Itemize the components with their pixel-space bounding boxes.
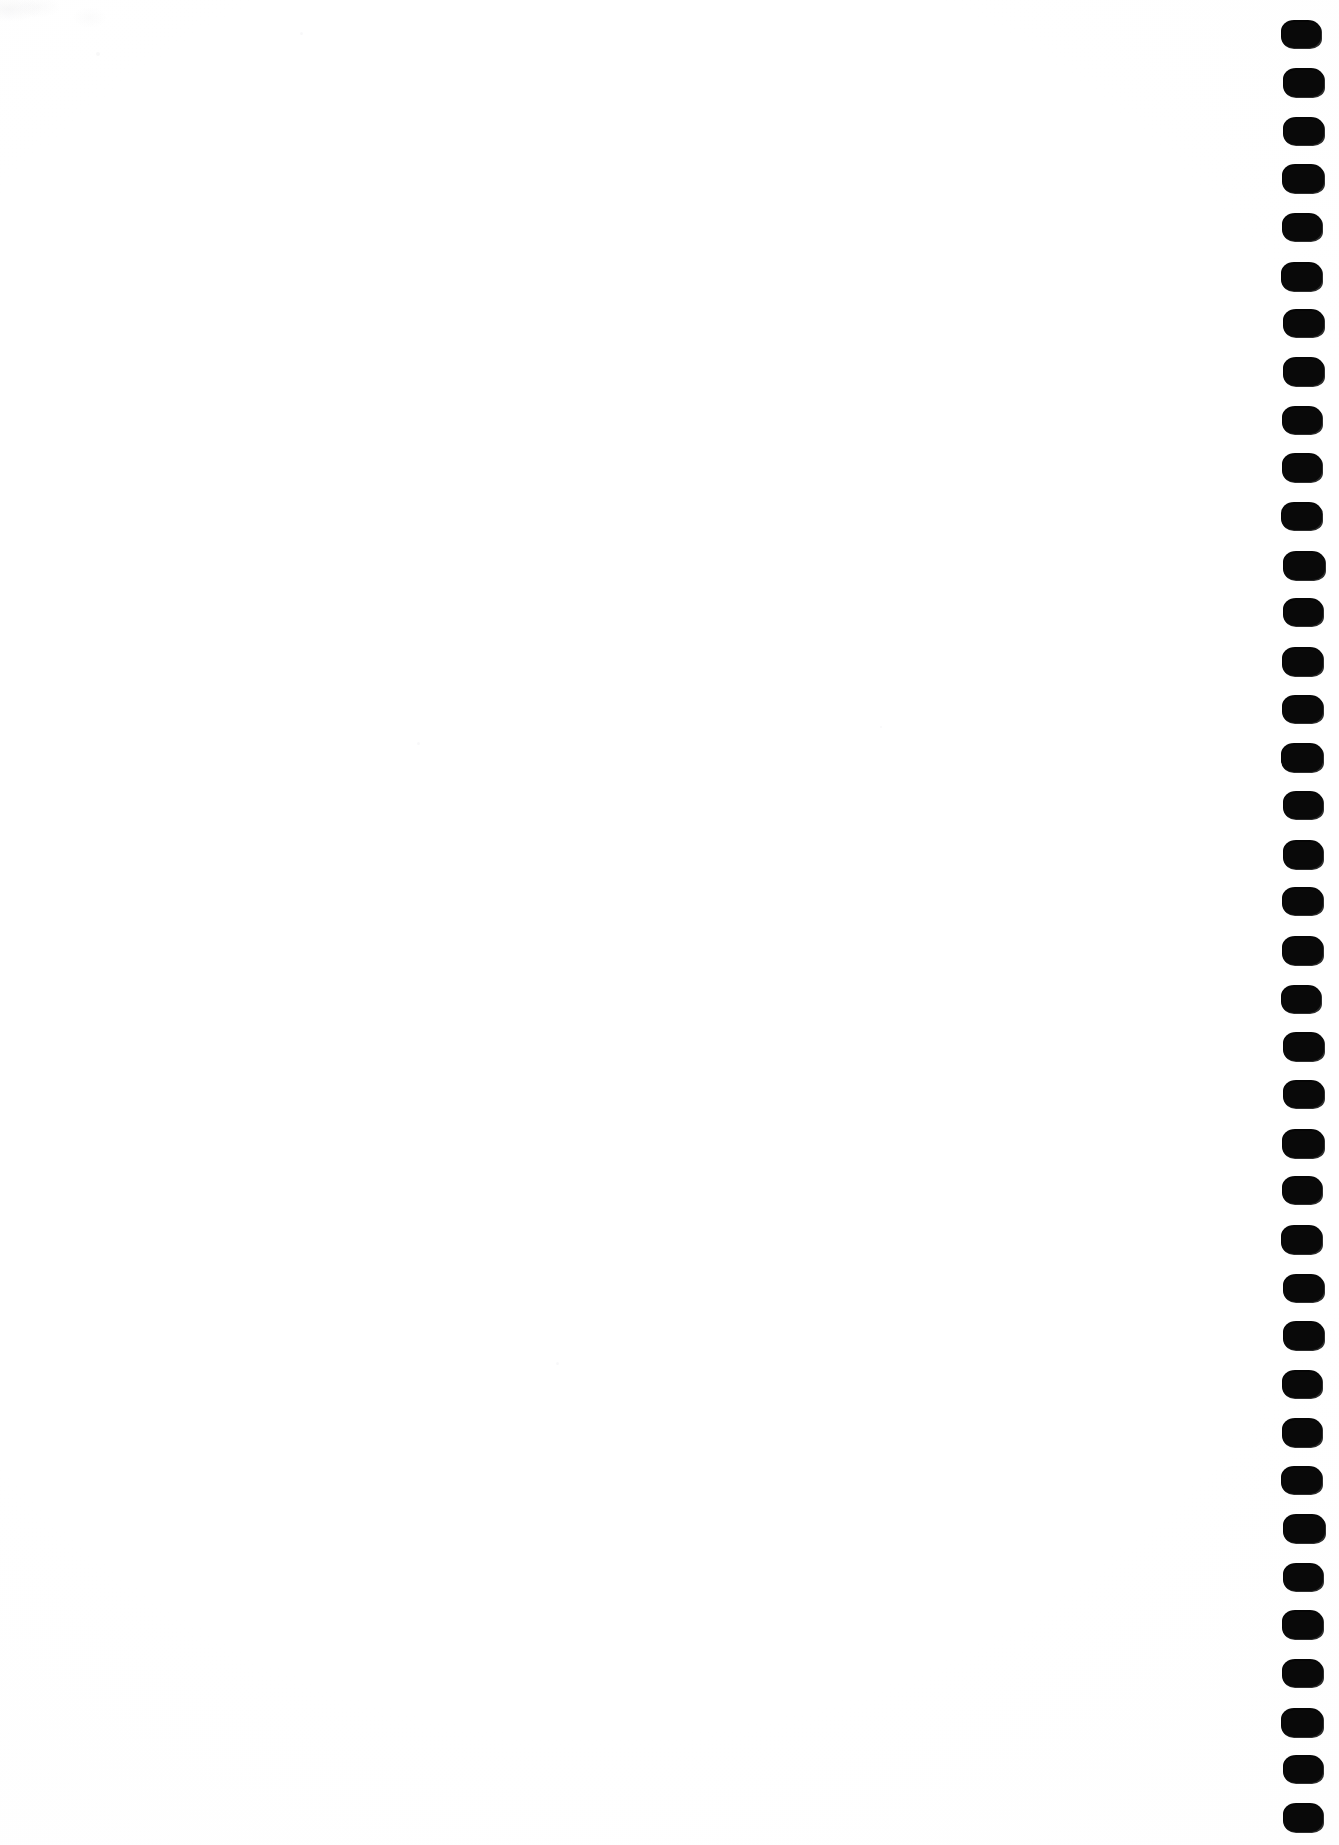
binding-hole (1283, 1563, 1323, 1591)
binding-hole (1282, 1418, 1323, 1447)
binding-hole (1283, 1755, 1323, 1783)
scan-smudge-icon (0, 0, 115, 30)
binding-hole (1283, 791, 1323, 819)
scanned-page (0, 0, 1339, 1845)
binding-hole (1282, 406, 1322, 434)
binding-hole (1283, 1274, 1324, 1302)
binding-hole (1283, 309, 1324, 337)
binding-hole (1283, 357, 1325, 386)
binding-hole (1282, 1610, 1323, 1639)
binding-hole (1281, 262, 1322, 291)
binding-hole (1283, 551, 1325, 580)
binding-hole (1281, 1225, 1322, 1254)
binding-hole (1281, 1466, 1322, 1494)
binding-hole (1282, 1129, 1324, 1158)
binding-hole (1283, 1803, 1324, 1832)
binding-hole (1281, 743, 1323, 772)
binding-hole (1283, 68, 1324, 97)
binding-hole (1283, 1321, 1325, 1350)
binding-hole (1282, 647, 1323, 676)
binding-hole (1282, 1659, 1323, 1687)
binding-hole (1281, 1708, 1323, 1737)
binding-hole (1283, 1032, 1324, 1061)
page-content-area (60, 60, 1240, 1780)
binding-hole (1282, 213, 1322, 241)
binding-hole (1283, 598, 1323, 626)
spiral-binding-holes (1280, 0, 1337, 1845)
binding-hole (1282, 164, 1324, 193)
binding-hole (1283, 840, 1324, 869)
binding-hole (1283, 1514, 1325, 1543)
binding-hole (1283, 1080, 1324, 1108)
binding-hole (1281, 20, 1321, 48)
binding-hole (1282, 936, 1324, 965)
binding-hole (1281, 985, 1321, 1013)
binding-hole (1283, 117, 1324, 145)
scan-speck (300, 32, 303, 35)
binding-hole (1282, 1370, 1322, 1398)
binding-hole (1282, 695, 1323, 723)
scan-speck (96, 52, 100, 56)
binding-hole (1282, 1176, 1322, 1204)
binding-hole (1281, 502, 1322, 530)
binding-hole (1282, 887, 1323, 915)
binding-hole (1282, 453, 1323, 482)
